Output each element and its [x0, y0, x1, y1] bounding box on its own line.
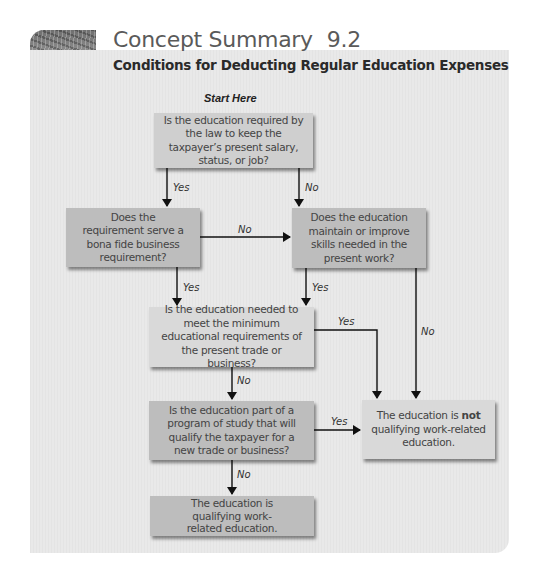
flow-node-maintain-improve-skills: Does the education maintain or improve s…: [292, 208, 426, 268]
flow-node-new-trade-program: Is the education part of a program of st…: [149, 401, 314, 460]
edge-label-q3-yes: Yes: [312, 282, 328, 293]
flow-result-qualifying: The education is qualifying work-related…: [150, 496, 314, 536]
flow-node-law-required: Is the education required by the law to …: [154, 113, 313, 168]
edge-label-q5-no: No: [237, 469, 251, 480]
result-text-before: The education is: [377, 409, 462, 421]
edge-label-q2-yes: Yes: [183, 282, 199, 293]
flow-node-minimum-requirements: Is the education needed to meet the mini…: [149, 307, 314, 367]
edge-label-q2-no: No: [238, 224, 252, 235]
edge-label-q4-no: No: [237, 375, 251, 386]
node-text: Is the education part of a program of st…: [159, 404, 304, 458]
node-text: Is the education needed to meet the mini…: [159, 303, 304, 371]
edge-label-q1-yes: Yes: [173, 182, 189, 193]
flow-node-bona-fide-requirement: Does the requirement serve a bona fide b…: [66, 208, 200, 267]
edge-label-q5-yes: Yes: [331, 416, 347, 427]
node-text: Does the requirement serve a bona fide b…: [82, 211, 184, 265]
edge-label-q1-no: No: [305, 182, 319, 193]
flow-result-not-qualifying: The education is not qualifying work-rel…: [362, 400, 495, 459]
result-text-emphasis: not: [462, 409, 481, 421]
node-text: The education is qualifying work-related…: [176, 497, 288, 535]
node-text: Does the education maintain or improve s…: [298, 211, 420, 265]
node-text: The education is not qualifying work-rel…: [370, 409, 487, 450]
result-text-after: qualifying work-related education.: [371, 423, 485, 449]
edge-label-q4-yes: Yes: [338, 316, 354, 327]
edge-label-q3-no: No: [421, 326, 435, 337]
flowchart-connectors: [0, 0, 535, 581]
node-text: Is the education required by the law to …: [162, 114, 305, 168]
